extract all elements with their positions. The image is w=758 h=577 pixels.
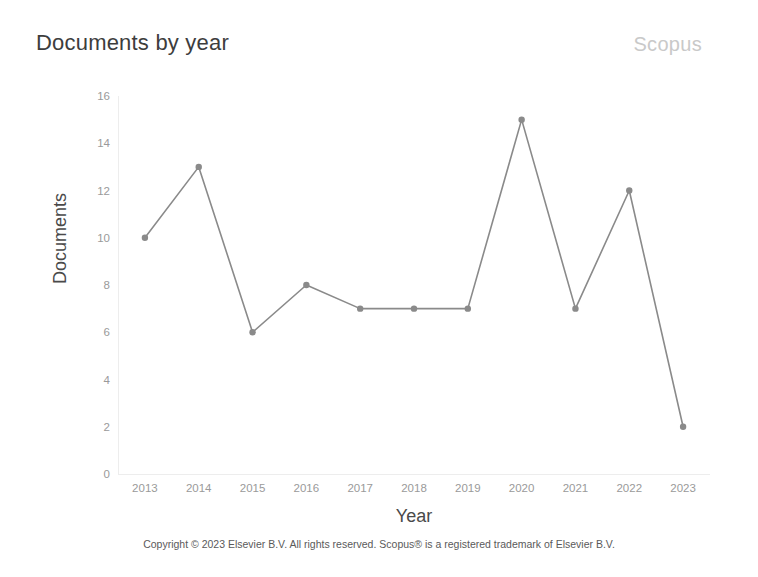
x-axis-tick: 2015 [240,482,266,494]
data-point[interactable] [357,305,363,311]
page-title: Documents by year [36,30,229,56]
x-axis-tick: 2013 [132,482,158,494]
y-axis-tick: 4 [104,374,110,386]
x-axis-tick: 2023 [670,482,696,494]
series-markers [142,116,687,430]
data-point[interactable] [680,424,686,430]
documents-line-series [118,96,710,474]
data-point[interactable] [196,164,202,170]
data-point[interactable] [572,305,578,311]
data-point[interactable] [303,282,309,288]
data-point[interactable] [465,305,471,311]
y-axis-tick: 2 [104,421,110,433]
x-axis-tick: 2014 [186,482,212,494]
y-axis-title: Documents [50,169,71,309]
y-axis-tick: 16 [97,90,110,102]
x-axis-tick: 2019 [455,482,481,494]
x-axis-tick-labels: 2013201420152016201720182019202020212022… [118,482,710,502]
data-point[interactable] [626,187,632,193]
y-axis-tick: 8 [104,279,110,291]
x-axis-tick: 2020 [509,482,535,494]
x-axis-tick: 2022 [616,482,642,494]
y-axis-tick: 14 [97,137,110,149]
copyright-notice: Copyright © 2023 Elsevier B.V. All right… [0,538,758,550]
plot-area [118,96,710,474]
scopus-brand-logo: Scopus [633,33,702,56]
data-point[interactable] [518,116,524,122]
x-axis-line [118,474,710,475]
x-axis-tick: 2018 [401,482,427,494]
data-point[interactable] [249,329,255,335]
chart-header: Documents by year Scopus [0,30,758,70]
y-axis-tick: 0 [104,468,110,480]
data-point[interactable] [411,305,417,311]
data-point[interactable] [142,235,148,241]
x-axis-tick: 2016 [294,482,320,494]
x-axis-title: Year [118,506,710,527]
y-axis-tick: 6 [104,326,110,338]
documents-by-year-chart-card: Documents by year Scopus 0246810121416 2… [0,0,758,577]
x-axis-tick: 2021 [563,482,589,494]
y-axis-tick: 10 [97,232,110,244]
x-axis-tick: 2017 [347,482,373,494]
series-polyline [145,120,683,427]
y-axis-tick: 12 [97,185,110,197]
y-axis-tick-labels: 0246810121416 [78,96,110,474]
